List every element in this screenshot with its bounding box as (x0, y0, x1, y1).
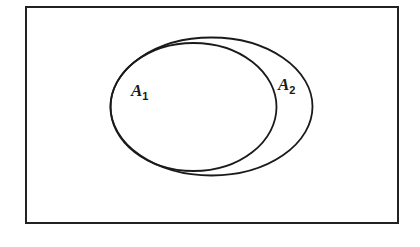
set-a2-subscript: 2 (289, 84, 295, 96)
set-a1-letter: A (130, 81, 142, 100)
set-a1-subscript: 1 (142, 90, 148, 102)
set-a2-letter: A (277, 75, 289, 94)
set-a2-label: A2 (277, 75, 295, 96)
set-a1-label: A1 (130, 81, 148, 102)
set-a1-ellipse (111, 43, 277, 171)
universe-rectangle (26, 7, 398, 223)
venn-diagram: A1 A2 (0, 0, 420, 247)
